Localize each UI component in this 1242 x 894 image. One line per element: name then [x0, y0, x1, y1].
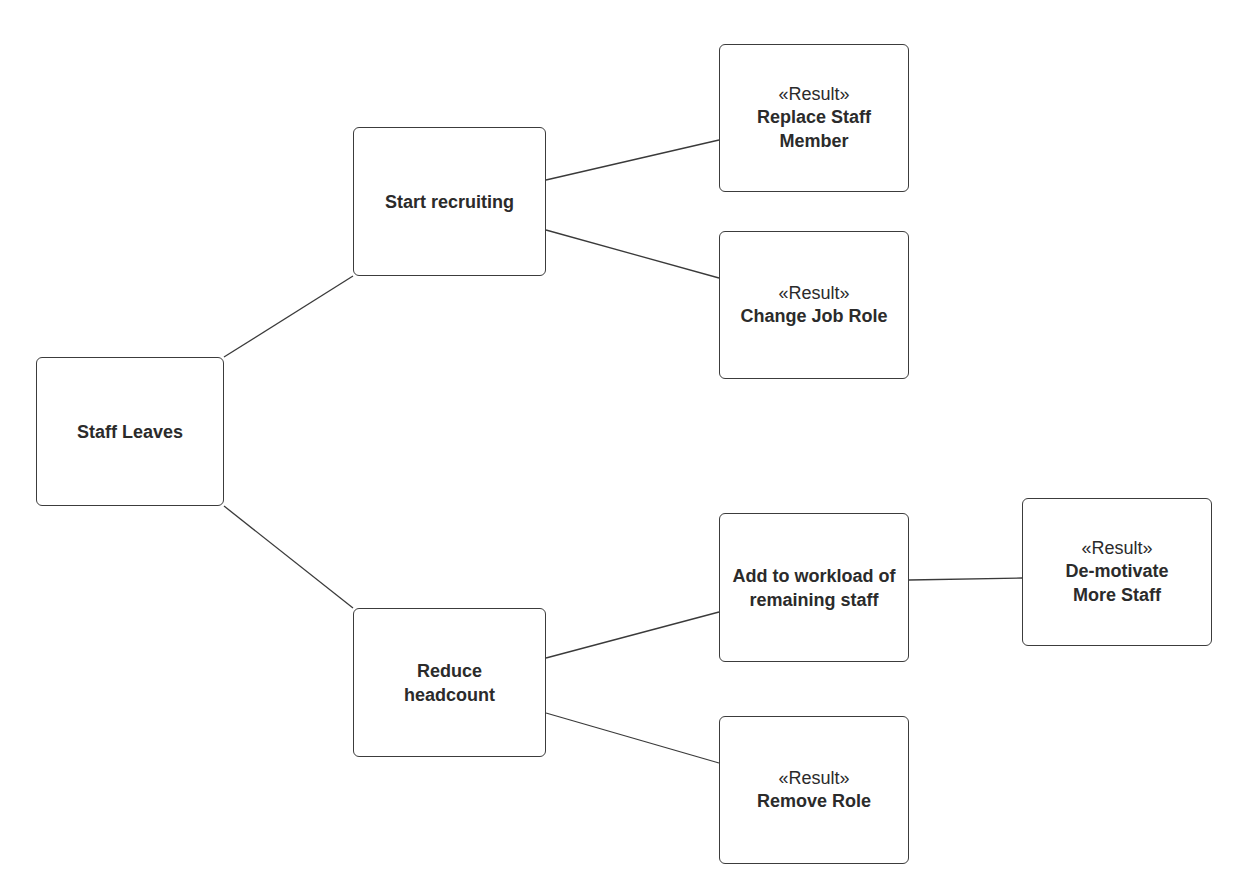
node-change-job-role[interactable]: «Result» Change Job Role [719, 231, 909, 379]
node-label: Change Job Role [736, 304, 891, 328]
node-add-to-workload[interactable]: Add to workload of remaining staff [719, 513, 909, 662]
node-label: Reduce headcount [354, 659, 545, 707]
node-start-recruiting[interactable]: Start recruiting [353, 127, 546, 276]
edge-staff-leaves-to-reduce-headcount [224, 506, 353, 608]
edge-reduce-headcount-to-add-workload [546, 612, 719, 658]
node-stereotype: «Result» [778, 767, 849, 789]
edge-reduce-headcount-to-remove-role [546, 713, 719, 763]
edge-staff-leaves-to-start-recruiting [224, 276, 353, 357]
node-label: Replace Staff Member [720, 105, 908, 153]
node-label: Staff Leaves [73, 420, 187, 444]
edge-start-recruiting-to-replace-staff [546, 140, 719, 180]
node-replace-staff-member[interactable]: «Result» Replace Staff Member [719, 44, 909, 192]
node-label: De-motivate More Staff [1023, 559, 1211, 607]
node-reduce-headcount[interactable]: Reduce headcount [353, 608, 546, 757]
node-demotivate-more-staff[interactable]: «Result» De-motivate More Staff [1022, 498, 1212, 646]
edge-add-workload-to-demotivate [909, 578, 1022, 580]
node-label: Start recruiting [381, 190, 518, 214]
node-staff-leaves[interactable]: Staff Leaves [36, 357, 224, 506]
node-label: Remove Role [753, 789, 875, 813]
node-label: Add to workload of remaining staff [720, 564, 908, 612]
node-remove-role[interactable]: «Result» Remove Role [719, 716, 909, 864]
edge-start-recruiting-to-change-job-role [546, 230, 719, 278]
node-stereotype: «Result» [778, 282, 849, 304]
node-stereotype: «Result» [778, 83, 849, 105]
node-stereotype: «Result» [1081, 537, 1152, 559]
